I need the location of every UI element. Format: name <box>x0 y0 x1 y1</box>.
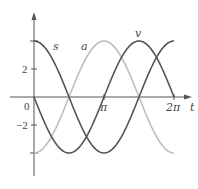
origin-label: 0 <box>24 100 30 112</box>
y-tick-label-2: 2 <box>22 63 28 75</box>
x-tick-label-2pi: 2π <box>165 101 181 114</box>
y-axis-arrow-icon <box>32 12 37 20</box>
chart-container: 2 −2 0 π 2π t s a v <box>0 0 198 189</box>
x-axis-arrow-icon <box>184 95 192 100</box>
x-tick-label-pi: π <box>99 101 108 114</box>
series-label-a: a <box>81 40 88 53</box>
y-tick-label-neg2: −2 <box>16 119 28 131</box>
series-label-v: v <box>135 27 142 40</box>
x-axis-label: t <box>190 101 195 114</box>
chart-svg: 2 −2 0 π 2π t s a v <box>0 0 198 189</box>
series-label-s: s <box>53 40 59 53</box>
